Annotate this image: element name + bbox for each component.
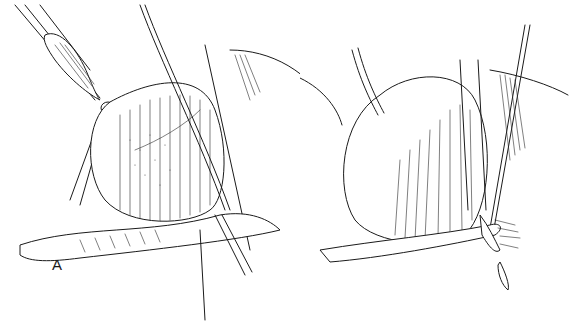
- sac-organ: [91, 83, 224, 221]
- panel-a-illustration: A: [0, 0, 300, 328]
- panel-a-drawing: [0, 0, 300, 328]
- forceps-instrument: [15, 5, 100, 100]
- panel-a-label: A: [52, 256, 62, 273]
- instrument-shaft-b: [488, 25, 530, 240]
- panel-b-drawing: [300, 0, 577, 328]
- tissue-curve-left: [300, 78, 342, 125]
- surgical-illustration-figure: A B: [0, 0, 577, 328]
- panel-b-illustration: B: [300, 0, 577, 328]
- tissue-curve-a: [230, 50, 300, 115]
